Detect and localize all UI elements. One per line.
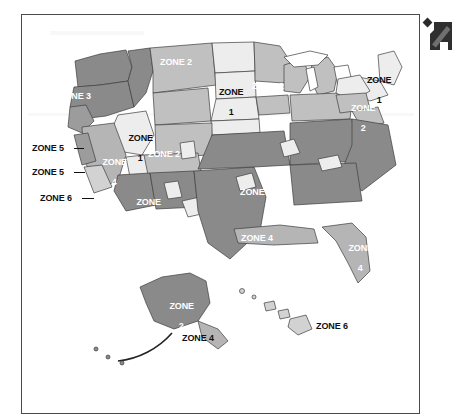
state-wyoming [153,88,211,125]
hawaii-islet [264,301,276,311]
aleutian-islet [94,347,98,351]
state-alaska-mainland [140,273,210,329]
arrow-pointer-icon [428,20,454,54]
aleutian-islet [120,361,124,365]
region-gulf-coast [234,225,318,245]
state-mountain-pocket [180,141,196,159]
leader-line-3 [82,198,94,199]
hawaii-big-island [288,315,312,335]
state-iowa [256,95,290,115]
leader-line-2 [74,172,85,173]
state-arizona [114,173,156,211]
leader-line-1 [74,148,84,149]
state-nebraska [211,97,259,121]
state-south-dakota [215,71,256,99]
map-panel: ZONE 3 ZONE 2 ZONE 1 ZONE 2 ZONE 1 ZONE … [21,14,420,414]
hawaii-islet [278,309,290,319]
state-montana [150,43,216,93]
state-north-dakota [212,42,255,73]
us-climate-zone-map [22,15,421,415]
state-oklahoma-arkansas [198,131,290,169]
aleutian-islet [106,355,110,359]
hawaii-islet [240,289,245,294]
alaska-aleutian-chain [118,333,172,361]
state-alaska-panhandle [198,321,228,349]
state-idaho-north [128,48,153,107]
state-maine [378,51,402,85]
state-texas [194,167,266,259]
state-florida [322,223,370,283]
hawaii-islet [252,295,256,299]
